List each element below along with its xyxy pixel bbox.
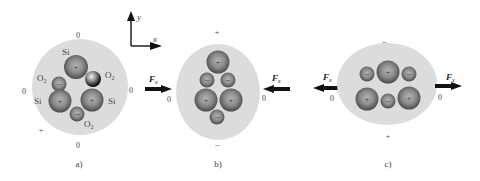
caption-a: a) (76, 159, 83, 169)
charge-corner-a: + (39, 126, 44, 135)
force-arrow-left-b (145, 87, 163, 91)
charge-plus: + (90, 96, 95, 105)
label-si-right: Si (108, 96, 116, 106)
arrow-left-icon (313, 84, 324, 92)
charge-plus: + (216, 58, 221, 67)
charge-plus: + (386, 68, 391, 77)
charge-bottom-c: + (386, 132, 391, 141)
charge-minus: − (204, 75, 209, 85)
zero-right-c: 0 (438, 93, 442, 102)
charge-minus: − (214, 112, 219, 122)
charge-plus: + (365, 95, 370, 104)
label-si-top: Si (62, 47, 70, 57)
charge-minus: − (225, 75, 230, 85)
force-arrow-right-b (273, 87, 290, 91)
charge-bottom-a: 0 (76, 141, 80, 150)
x-axis-label: x (152, 34, 157, 44)
force-label-right-b: Fx (271, 73, 281, 84)
charge-left-a: 0 (22, 87, 26, 96)
zero-left-b: 0 (167, 95, 171, 104)
label-si-left: Si (34, 96, 42, 106)
force-label-left-c: Fx (322, 72, 332, 83)
charge-minus: − (56, 79, 61, 89)
charge-minus: − (406, 69, 411, 79)
charge-plus: + (407, 94, 412, 103)
panel-a: + − + + − Si O2 O2 Si Si O2 0 0 0 0 + a) (22, 31, 133, 169)
y-axis-arrowhead-icon (127, 11, 135, 21)
y-axis-label: y (136, 12, 141, 22)
arrow-right-icon (161, 85, 172, 93)
charge-bottom-b: − (214, 140, 219, 150)
force-label-left-b: Fx (148, 74, 158, 85)
charge-plus: + (74, 63, 79, 72)
zero-left-c: 0 (330, 94, 334, 103)
arrow-left-icon (263, 85, 274, 93)
charge-plus: + (229, 96, 234, 105)
force-label-right-c: Fx (445, 72, 455, 83)
piezoelectric-diagram: y x + − + + − Si O2 O2 Si Si O2 0 0 0 0 … (0, 0, 480, 181)
caption-b: b) (214, 159, 222, 169)
coordinate-axes: y x (127, 11, 162, 50)
panel-c: Fx 0 − + − + − + − + Fx 0 c) (313, 37, 462, 169)
charge-minus: − (364, 69, 369, 79)
charge-top-a: 0 (76, 31, 80, 40)
charge-plus: + (58, 97, 63, 106)
o2-atom-shiny (85, 71, 101, 87)
shell-c (337, 43, 437, 125)
force-arrow-right-c (435, 84, 453, 88)
charge-top-c: − (381, 37, 386, 47)
charge-plus: + (204, 96, 209, 105)
charge-minus: − (385, 96, 390, 106)
charge-minus: − (74, 109, 79, 119)
charge-right-a: 0 (129, 86, 133, 95)
charge-top-b: + (215, 28, 220, 37)
arrow-right-icon (451, 82, 462, 90)
caption-c: c) (385, 159, 392, 169)
zero-right-b: 0 (262, 94, 266, 103)
